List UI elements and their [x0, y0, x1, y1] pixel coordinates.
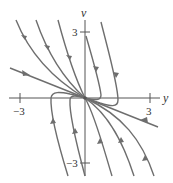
- v-axis-label: v: [81, 6, 87, 20]
- tick-label-x-neg3: −3: [13, 105, 25, 117]
- tick-label-v-neg3: −3: [66, 157, 78, 169]
- tick-label-v-pos3: 3: [72, 26, 78, 38]
- arrow-icon: [22, 70, 30, 76]
- arrow-icon: [93, 66, 99, 72]
- tick-label-x-pos3: 3: [146, 105, 152, 117]
- arrow-icon: [44, 45, 50, 50]
- trajectory: [85, 36, 101, 100]
- trajectory: [85, 98, 134, 176]
- phase-portrait: v y −3 3 3 −3: [0, 0, 173, 183]
- y-axis-label: y: [162, 91, 169, 105]
- trajectory: [85, 22, 118, 106]
- trajectory: [85, 98, 154, 176]
- equilibrium-point: [83, 96, 87, 100]
- arrow-icon: [50, 118, 56, 124]
